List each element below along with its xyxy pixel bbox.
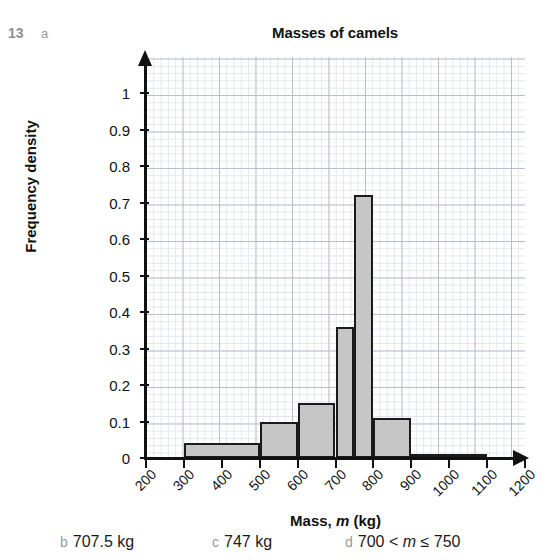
answer-text: 707.5 kg — [73, 533, 134, 550]
y-axis-tick-label: 1 — [84, 85, 130, 102]
answers-row: b707.5 kgc747 kgd700 < m ≤ 750 — [0, 533, 549, 559]
y-axis-tick — [140, 129, 149, 131]
y-axis-tick-label: 0.4 — [84, 304, 130, 321]
y-axis-tick — [140, 421, 149, 423]
y-axis-tick — [140, 165, 149, 167]
x-axis-title-variable: m — [336, 512, 349, 529]
y-axis-arrow-icon — [138, 50, 152, 66]
x-axis-title-suffix: (kg) — [349, 512, 381, 529]
question-part-a: a — [41, 26, 48, 41]
answer-text: 700 < m ≤ 750 — [358, 533, 461, 550]
answer-d: d700 < m ≤ 750 — [345, 533, 460, 551]
x-axis-arrow-icon — [513, 450, 529, 466]
answer-c: c747 kg — [212, 533, 272, 551]
worksheet-page: 13 a Masses of camels 00.10.20.30.40.50.… — [0, 0, 549, 560]
y-axis-tick-label: 0 — [84, 450, 130, 467]
y-axis-tick-labels: 00.10.20.30.40.50.60.70.80.91 — [84, 0, 130, 560]
answer-tag: b — [60, 534, 68, 550]
y-axis-tick-label: 0.9 — [84, 121, 130, 138]
y-axis-tick — [140, 311, 149, 313]
histogram-bar — [260, 422, 298, 459]
y-axis-tick — [140, 384, 149, 386]
y-axis-tick-label: 0.2 — [84, 377, 130, 394]
y-axis-tick — [140, 92, 149, 94]
histogram-bar — [298, 403, 336, 458]
y-axis-tick — [140, 202, 149, 204]
plot-area — [146, 57, 525, 458]
histogram-bar — [354, 195, 373, 458]
y-axis-tick-label: 0.1 — [84, 413, 130, 430]
x-axis-title-prefix: Mass, — [290, 512, 336, 529]
x-axis-line — [144, 457, 519, 460]
x-axis-title: Mass, m (kg) — [146, 512, 525, 529]
y-axis-title: Frequency density — [22, 37, 39, 337]
answer-tag: c — [212, 534, 219, 550]
y-axis-line — [144, 62, 147, 459]
histogram-bar — [373, 418, 411, 458]
answer-text: 747 kg — [224, 533, 272, 550]
y-axis-tick-label: 0.8 — [84, 158, 130, 175]
y-axis-tick — [140, 238, 149, 240]
y-axis-tick — [140, 275, 149, 277]
chart-title: Masses of camels — [145, 24, 525, 41]
y-axis-tick-label: 0.6 — [84, 231, 130, 248]
answer-b: b707.5 kg — [60, 533, 134, 551]
answer-tag: d — [345, 534, 353, 550]
y-axis-tick — [140, 348, 149, 350]
y-axis-tick-label: 0.3 — [84, 340, 130, 357]
y-axis-tick-label: 0.7 — [84, 194, 130, 211]
y-axis-tick-label: 0.5 — [84, 267, 130, 284]
histogram-bar — [184, 443, 260, 458]
histogram-bar — [336, 327, 355, 458]
histogram-bars — [146, 57, 525, 458]
